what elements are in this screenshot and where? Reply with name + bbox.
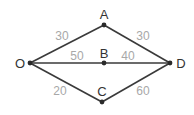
weight-o-a: 30 [55, 29, 69, 43]
node-labels: O A B C D [15, 7, 186, 99]
node-o [28, 61, 33, 66]
label-c: C [97, 84, 106, 99]
node-b [102, 61, 107, 66]
label-b: B [100, 46, 109, 61]
label-o: O [15, 56, 25, 71]
weight-a-d: 30 [136, 29, 150, 43]
weight-b-d: 40 [121, 49, 135, 63]
graph-diagram: 30 30 50 40 20 60 O A B C D [0, 0, 194, 115]
node-c [100, 100, 105, 105]
node-a [102, 23, 107, 28]
label-a: A [100, 7, 109, 22]
node-d [168, 61, 173, 66]
weight-o-c: 20 [53, 84, 67, 98]
weight-c-d: 60 [136, 84, 150, 98]
weight-o-b: 50 [70, 49, 84, 63]
label-d: D [176, 56, 185, 71]
